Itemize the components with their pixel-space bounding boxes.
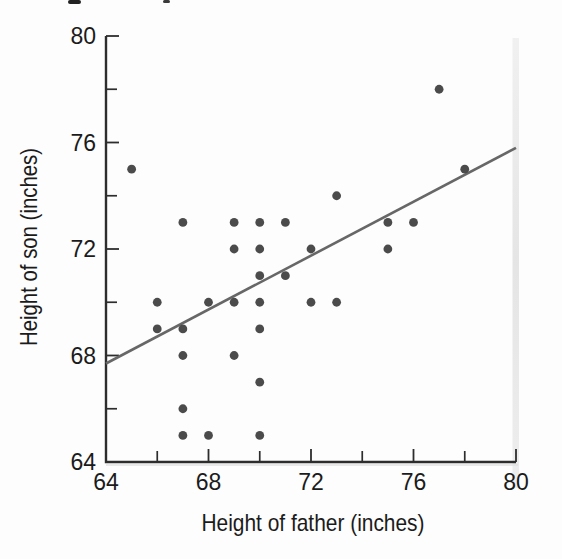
regression-line: [106, 148, 516, 364]
x-tick-label: 72: [298, 469, 324, 495]
chart-content: 64687276806468727680: [70, 23, 528, 495]
y-tick-label: 76: [70, 130, 96, 156]
scan-edge-band: [513, 38, 520, 488]
data-point: [281, 218, 290, 227]
data-point: [153, 324, 162, 333]
x-tick-label: 76: [401, 469, 427, 495]
x-tick-label: 64: [93, 469, 119, 495]
data-point: [204, 431, 213, 440]
data-point: [281, 271, 290, 280]
data-point: [435, 85, 444, 94]
data-point: [255, 245, 264, 254]
data-point: [178, 351, 187, 360]
data-point: [409, 218, 418, 227]
data-point: [178, 324, 187, 333]
y-tick-label: 68: [70, 343, 96, 369]
data-point: [255, 298, 264, 307]
x-tick-label: 68: [196, 469, 222, 495]
scan-artifact: [163, 0, 170, 3]
data-point: [255, 431, 264, 440]
x-tick-label: 80: [503, 469, 529, 495]
y-axis-title: Height of son (inches): [15, 148, 42, 346]
data-point: [178, 404, 187, 413]
data-point: [230, 218, 239, 227]
data-point: [332, 298, 341, 307]
data-point: [255, 324, 264, 333]
data-point: [383, 218, 392, 227]
data-point: [204, 298, 213, 307]
data-point: [255, 271, 264, 280]
scatter-plot-figure: 64687276806468727680 Height of father (i…: [0, 0, 562, 559]
data-point: [460, 165, 469, 174]
y-tick-label: 80: [70, 23, 96, 49]
data-point: [255, 378, 264, 387]
x-axis-title: Height of father (inches): [202, 509, 425, 536]
data-point: [230, 245, 239, 254]
scan-axis-shadow: [106, 464, 518, 466]
data-point: [255, 218, 264, 227]
data-point: [307, 298, 316, 307]
scan-artifact: [68, 0, 81, 4]
data-point: [178, 431, 187, 440]
scatter-plot: 64687276806468727680 Height of father (i…: [0, 0, 562, 559]
data-point: [383, 245, 392, 254]
data-point: [230, 298, 239, 307]
data-point: [178, 218, 187, 227]
y-tick-label: 72: [70, 236, 96, 262]
data-point: [230, 351, 239, 360]
data-point: [127, 165, 136, 174]
data-point: [153, 298, 162, 307]
data-point: [307, 245, 316, 254]
data-point: [332, 191, 341, 200]
